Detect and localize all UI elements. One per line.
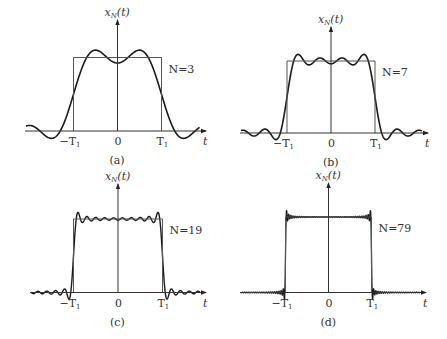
- panel-caption: (c): [110, 316, 125, 329]
- panel-caption: (b): [323, 156, 339, 169]
- y-axis-label: xN(t): [105, 170, 130, 184]
- fourier-gibbs-figure: xN(t) N=3 t −T1 0 T1 (a) xN(t) N=7 t −T1…: [0, 0, 447, 339]
- n-label: N=7: [382, 66, 408, 79]
- tick-zero: 0: [115, 297, 122, 310]
- t-label: t: [203, 135, 208, 148]
- y-axis-label: xN(t): [316, 169, 341, 183]
- panel-a: xN(t) N=3 t −T1 0 T1 (a): [25, 6, 208, 167]
- tick-neg-t1: −T1: [272, 297, 293, 311]
- t-label: t: [423, 297, 428, 310]
- y-axis-label: xN(t): [105, 6, 130, 20]
- tick-zero: 0: [326, 297, 333, 310]
- panel-d: xN(t) N=79 t −T1 0 T1 (d): [240, 169, 428, 329]
- tick-neg-t1: −T1: [60, 135, 81, 149]
- y-axis-label: xN(t): [318, 13, 343, 27]
- tick-neg-t1: −T1: [273, 137, 294, 151]
- t-label: t: [425, 137, 430, 150]
- tick-neg-t1: −T1: [60, 297, 81, 311]
- tick-zero: 0: [328, 137, 335, 150]
- panel-caption: (a): [110, 154, 125, 167]
- n-label: N=19: [170, 224, 203, 237]
- tick-t1: T1: [370, 137, 382, 151]
- panel-c: xN(t) N=19 t −T1 0 T1 (c): [30, 170, 208, 329]
- tick-zero: 0: [115, 135, 122, 148]
- n-label: N=79: [379, 222, 412, 235]
- n-label: N=3: [169, 63, 195, 76]
- tick-t1: T1: [367, 297, 379, 311]
- t-label: t: [203, 297, 208, 310]
- tick-t1: T1: [157, 135, 169, 149]
- panel-caption: (d): [321, 316, 337, 329]
- panel-b: xN(t) N=7 t −T1 0 T1 (b): [240, 13, 430, 169]
